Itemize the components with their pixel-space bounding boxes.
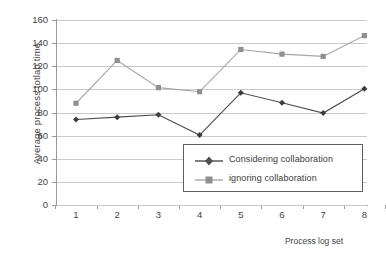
data-point-square-icon	[238, 47, 243, 52]
x-tick-label: 5	[229, 209, 253, 220]
data-point-square-icon	[115, 58, 120, 63]
y-axis-title: Average process totlao time	[31, 4, 42, 204]
data-point-diamond-icon	[114, 114, 120, 120]
y-tick-label: 80	[22, 108, 48, 118]
y-tick-label: 120	[22, 61, 48, 71]
series-line	[76, 36, 364, 104]
legend-label-considering-collaboration: Considering collaboration	[224, 154, 333, 164]
legend-label-ignoring-collaboration: ignoring collaboration	[224, 173, 317, 183]
legend-item-ignoring-collaboration: ignoring collaboration	[194, 170, 317, 186]
legend-item-considering-collaboration: Considering collaboration	[194, 151, 333, 167]
data-point-square-icon	[321, 54, 326, 59]
data-point-square-icon	[279, 52, 284, 57]
x-tick-label: 6	[270, 209, 294, 220]
x-tick-label: 2	[105, 209, 129, 220]
x-tick-label: 3	[146, 209, 170, 220]
y-tick-label: 60	[22, 131, 48, 141]
data-point-diamond-icon	[279, 100, 285, 106]
data-point-diamond-icon	[361, 86, 367, 92]
data-point-diamond-icon	[320, 110, 326, 116]
x-tick-label: 1	[64, 209, 88, 220]
x-tick-label: 7	[311, 209, 335, 220]
x-axis-title: Process log set	[262, 236, 366, 246]
x-tick-label: 4	[188, 209, 212, 220]
data-point-square-icon	[197, 89, 202, 94]
data-point-square-icon	[156, 85, 161, 90]
series-considering-collaboration	[73, 86, 367, 138]
y-tick-label: 140	[22, 38, 48, 48]
data-point-diamond-icon	[155, 112, 161, 118]
data-point-square-icon	[73, 101, 78, 106]
data-point-square-icon	[362, 33, 367, 38]
series-line	[76, 89, 364, 135]
legend-marker-square-icon	[194, 172, 224, 184]
data-point-diamond-icon	[73, 116, 79, 122]
y-tick-label: 20	[22, 177, 48, 187]
series-ignoring-collaboration	[73, 33, 367, 106]
y-tick-label: 100	[22, 84, 48, 94]
legend-marker-diamond-icon	[194, 153, 224, 165]
y-tick-label: 160	[22, 15, 48, 25]
x-tick-label: 8	[352, 209, 376, 220]
legend-box: Considering collaboration ignoring colla…	[183, 144, 363, 192]
gridline	[57, 205, 367, 206]
y-tick-label: 0	[22, 200, 48, 210]
y-tick-label: 40	[22, 154, 48, 164]
